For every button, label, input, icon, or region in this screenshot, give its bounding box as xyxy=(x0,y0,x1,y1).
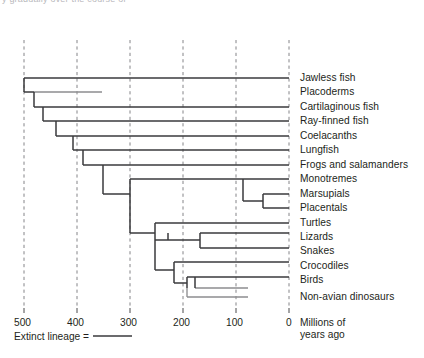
axis-tick-label-100: 100 xyxy=(226,317,243,328)
leaf-label-coelacanths: Coelacanths xyxy=(300,131,357,141)
leaf-label-snakes: Snakes xyxy=(300,246,334,256)
leaf-label-placoderms: Placoderms xyxy=(300,87,354,97)
leaf-label-monotremes: Monotremes xyxy=(300,174,357,184)
axis-tick-label-200: 200 xyxy=(173,317,190,328)
legend-extinct-lineage-label: Extinct lineage = xyxy=(14,331,89,342)
leaf-label-crocodiles: Crocodiles xyxy=(300,261,349,271)
axis-tick-label-400: 400 xyxy=(67,317,84,328)
leaf-label-marsupials: Marsupials xyxy=(300,189,350,199)
phylogenetic-tree-figure: y gradually over the course of xyxy=(0,0,424,358)
leaf-label-cartilaginous-fish: Cartilaginous fish xyxy=(300,102,379,112)
leaf-label-frogs-and-salamanders: Frogs and salamanders xyxy=(300,160,408,170)
tree-canvas xyxy=(0,0,424,358)
axis-tick-label-300: 300 xyxy=(120,317,137,328)
leaf-label-non-avian-dinosaurs: Non-avian dinosaurs xyxy=(300,292,394,302)
leaf-label-birds: Birds xyxy=(300,275,323,285)
axis-tick-label-500: 500 xyxy=(14,317,31,328)
leaf-label-ray-finned-fish: Ray-finned fish xyxy=(300,116,369,126)
leaf-label-jawless-fish: Jawless fish xyxy=(300,73,356,83)
gridlines xyxy=(24,40,289,308)
axis-unit-line-1: Millions of xyxy=(300,317,345,329)
leaf-label-lungfish: Lungfish xyxy=(300,145,339,155)
leaf-label-turtles: Turtles xyxy=(300,218,331,228)
tick-marks xyxy=(24,308,289,313)
leaf-label-lizards: Lizards xyxy=(300,232,333,242)
axis-tick-label-0: 0 xyxy=(286,317,292,328)
living-branches xyxy=(24,78,289,288)
extinct-branches xyxy=(34,92,248,297)
leaf-label-placentals: Placentals xyxy=(300,203,348,213)
axis-unit-line-2: years ago xyxy=(300,329,345,341)
